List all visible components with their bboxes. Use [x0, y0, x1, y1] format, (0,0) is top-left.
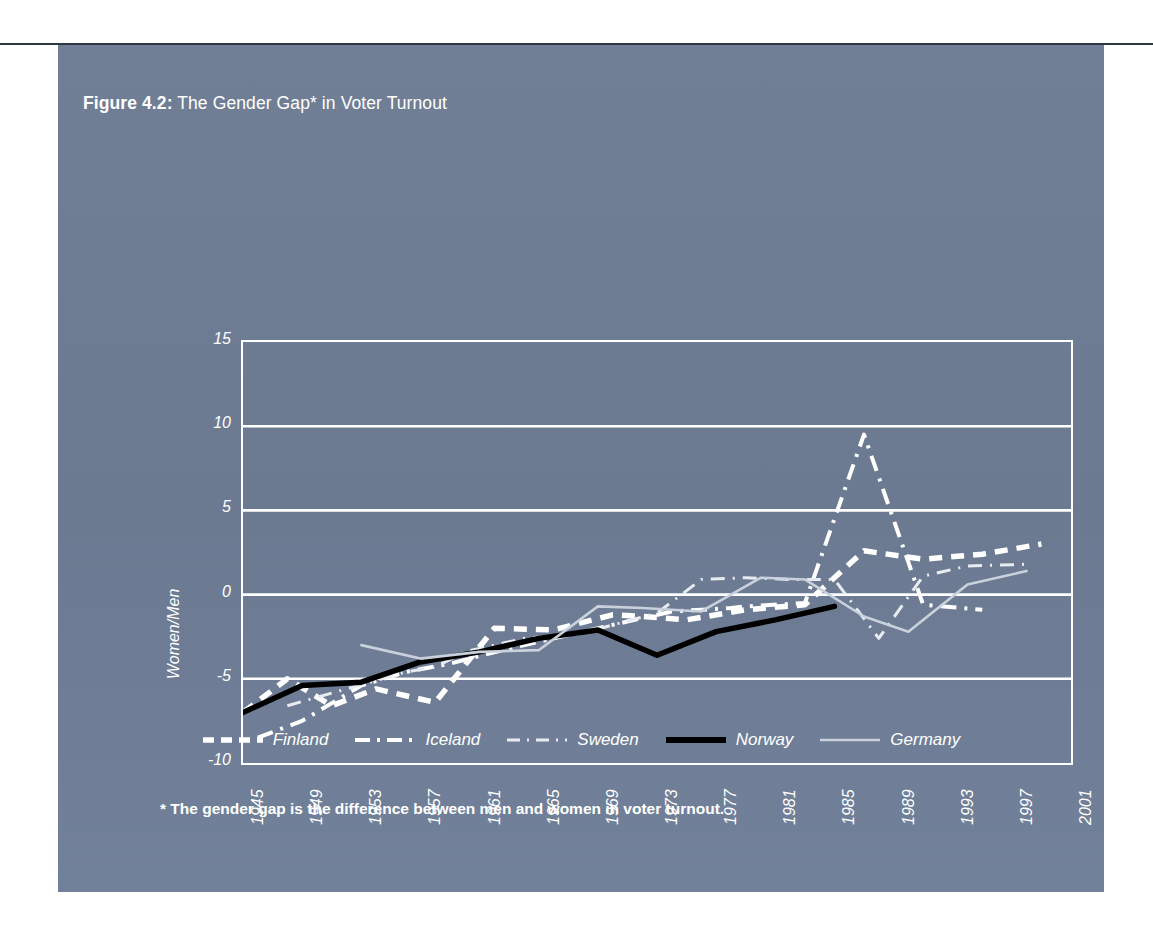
legend-item-sweden: Sweden [506, 730, 638, 750]
legend-item-finland: Finland [202, 730, 329, 750]
legend-swatch-sweden [506, 733, 568, 747]
y-tick-label: 5 [222, 498, 231, 516]
legend-swatch-iceland [354, 733, 416, 747]
y-tick-label: 10 [213, 414, 231, 432]
legend-swatch-norway [665, 733, 727, 747]
figure-footnote: * The gender gap is the difference betwe… [160, 800, 724, 818]
legend-swatch-germany [819, 733, 881, 747]
chart-legend: FinlandIcelandSwedenNorwayGermany [58, 730, 1104, 750]
y-tick-label: 0 [222, 583, 231, 601]
legend-label: Norway [736, 730, 794, 750]
x-tick-label: 2001 [1077, 789, 1095, 825]
figure-title-text: The Gender Gap* in Voter Turnout [177, 93, 447, 113]
plot-area [241, 340, 1073, 765]
legend-label: Iceland [425, 730, 480, 750]
series-line-sweden [287, 564, 1026, 705]
x-tick-label: 1977 [722, 789, 740, 825]
legend-swatch-finland [202, 733, 264, 747]
x-tick-label: 1981 [781, 789, 799, 825]
x-tick-label: 1985 [840, 789, 858, 825]
legend-item-germany: Germany [819, 730, 960, 750]
x-tick-label: 1997 [1018, 789, 1036, 825]
y-tick-label: -10 [208, 751, 231, 769]
figure-title: Figure 4.2: The Gender Gap* in Voter Tur… [83, 93, 447, 114]
figure-panel: 151050-5-10 Women/Men 194519491953195719… [58, 45, 1104, 892]
y-tick-label: -5 [217, 667, 231, 685]
legend-label: Finland [273, 730, 329, 750]
series-line-norway [243, 606, 834, 712]
y-tick-label: 15 [213, 330, 231, 348]
figure-number: Figure 4.2: [83, 93, 173, 113]
legend-item-norway: Norway [665, 730, 794, 750]
chart-area: 151050-5-10 Women/Men 194519491953195719… [118, 170, 1078, 770]
legend-label: Sweden [577, 730, 638, 750]
legend-item-iceland: Iceland [354, 730, 480, 750]
legend-label: Germany [890, 730, 960, 750]
page-root: 151050-5-10 Women/Men 194519491953195719… [0, 0, 1153, 943]
x-tick-label: 1993 [959, 789, 977, 825]
x-tick-label: 1989 [900, 789, 918, 825]
plot-svg [243, 342, 1071, 763]
series-line-finland [243, 544, 1041, 712]
y-axis-title: Women/Men [165, 554, 183, 714]
